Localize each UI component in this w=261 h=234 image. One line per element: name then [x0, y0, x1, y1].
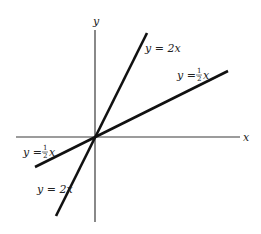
coordinate-plane: x y y = 2x y = 1 2 x y = 1 2 x y = 2x	[0, 0, 261, 234]
y-axis-label: y	[92, 15, 100, 28]
svg-text:2: 2	[197, 75, 201, 83]
svg-text:x: x	[49, 146, 56, 159]
label-upper-y-2x: y = 2x	[144, 42, 181, 55]
svg-text:y =: y =	[176, 69, 196, 82]
svg-text:y =: y =	[22, 146, 42, 159]
svg-text:1: 1	[197, 67, 201, 75]
label-upper-y-half-x: y = 1 2 x	[176, 67, 210, 83]
label-lower-y-half-x: y = 1 2 x	[22, 144, 56, 160]
label-lower-y-2x: y = 2x	[36, 183, 73, 196]
svg-text:x: x	[203, 69, 210, 82]
svg-text:2: 2	[43, 152, 47, 160]
svg-text:1: 1	[43, 144, 47, 152]
line-y-equals-half-x	[35, 71, 228, 167]
x-axis-label: x	[243, 131, 250, 144]
